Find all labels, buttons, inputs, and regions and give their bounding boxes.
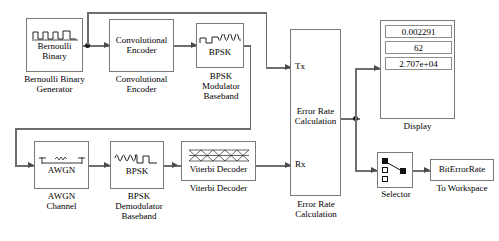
block-awgn-channel[interactable]: AWGN: [34, 141, 89, 189]
block-to-workspace-label: BitErrorRate: [439, 165, 486, 174]
wire-channel-across: [15, 128, 251, 130]
wire-bernoulli-branch-down: [266, 12, 268, 68]
wire-branch-to-display-up: [355, 68, 357, 120]
display-value-2: 2.707e+04: [385, 57, 452, 70]
block-viterbi-decoder[interactable]: Viterbi Decoder: [181, 141, 256, 181]
caption-bernoulli-generator: Bernoulli Binary Generator: [6, 74, 103, 94]
block-convolutional-encoder-label: Convolutional Encoder: [116, 36, 168, 55]
caption-bpsk-modulator: BPSK Modulator Baseband: [186, 71, 256, 101]
block-to-workspace[interactable]: BitErrorRate: [430, 159, 494, 181]
caption-awgn-channel: AWGN Channel: [24, 191, 99, 211]
caption-convolutional-encoder: Convolutional Encoder: [104, 74, 179, 94]
square-to-sine-icon: [199, 34, 241, 47]
caption-selector: Selector: [372, 189, 420, 199]
caption-display: Display: [380, 121, 455, 131]
caption-viterbi-decoder: Viterbi Decoder: [181, 183, 256, 193]
simulink-block-diagram: Bernoulli Binary Bernoulli Binary Genera…: [0, 0, 499, 241]
display-value-0: 0.002291: [385, 25, 452, 38]
block-convolutional-encoder[interactable]: Convolutional Encoder: [109, 19, 174, 72]
block-display[interactable]: 0.002291 62 2.707e+04: [380, 20, 455, 119]
block-bernoulli-label: Bernoulli Binary: [38, 42, 72, 61]
block-bpsk-modulator[interactable]: BPSK: [196, 23, 244, 68]
selector-icon: [379, 154, 411, 186]
port-label-rx: Rx: [295, 160, 306, 169]
port-label-tx: Tx: [295, 62, 305, 71]
wire-branch-to-selector-down: [355, 118, 357, 171]
block-bpsk-demodulator-label: BPSK: [126, 167, 149, 176]
caption-bpsk-demodulator: BPSK Demodulator Baseband: [100, 191, 178, 221]
block-bernoulli-binary-generator[interactable]: Bernoulli Binary: [26, 18, 83, 72]
block-awgn-label: AWGN: [48, 166, 75, 175]
block-viterbi-label: Viterbi Decoder: [190, 165, 248, 174]
block-error-rate-label: Error Rate Calculation: [291, 106, 340, 127]
caption-to-workspace: To Workspace: [426, 183, 498, 193]
sine-to-square-icon: [114, 153, 160, 166]
block-error-rate-calculation[interactable]: Tx Rx Error Rate Calculation: [290, 29, 341, 196]
trellis-icon: [187, 148, 251, 163]
block-bpsk-demodulator[interactable]: BPSK: [110, 141, 164, 189]
arrow-to-viterbi: [172, 162, 178, 168]
display-value-1: 62: [385, 41, 452, 54]
block-bpsk-modulator-label: BPSK: [209, 48, 232, 57]
block-selector[interactable]: [377, 152, 413, 188]
wire-channel-down: [15, 128, 17, 166]
wire-bernoulli-branch-across: [87, 12, 267, 14]
caption-error-rate-calculation: Error Rate Calculation: [281, 199, 351, 219]
square-wave-icon: [32, 29, 78, 41]
wire-bernoulli-branch-up: [87, 12, 89, 45]
